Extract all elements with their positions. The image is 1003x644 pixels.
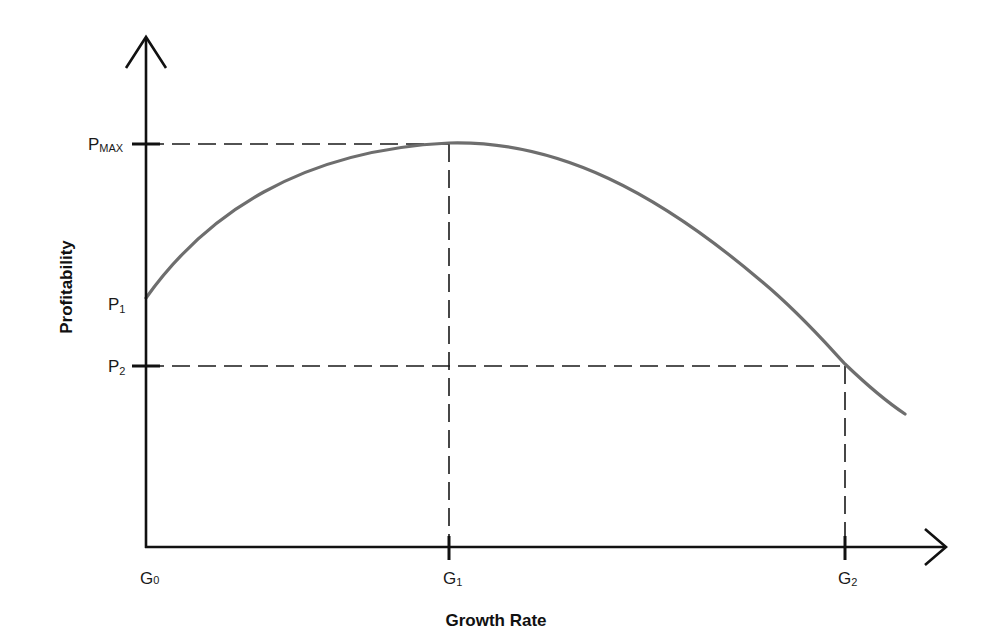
y-axis-title: Profitability bbox=[57, 240, 76, 334]
profitability-curve bbox=[146, 143, 905, 414]
profitability-growth-chart: PMAX P1 P2 G0 G1 G2 Growth Rate Profitab… bbox=[0, 0, 1003, 644]
axes bbox=[126, 37, 946, 565]
g1-label: G1 bbox=[443, 569, 462, 588]
reference-lines bbox=[146, 144, 845, 547]
g2-label: G2 bbox=[838, 569, 857, 588]
p2-label: P2 bbox=[108, 357, 125, 377]
pmax-label: PMAX bbox=[88, 135, 124, 154]
p1-label: P1 bbox=[108, 295, 125, 315]
x-axis-title: Growth Rate bbox=[445, 611, 546, 630]
g0-label: G0 bbox=[140, 569, 159, 588]
